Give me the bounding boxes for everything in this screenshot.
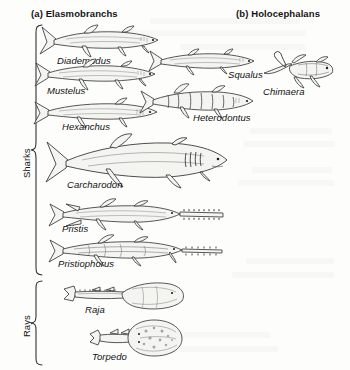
taxon-label-pristiophorus: Pristiophorus	[58, 258, 114, 269]
taxon-label-carcharodon: Carcharodon	[67, 179, 122, 190]
group-label-rays: Rays	[21, 315, 32, 337]
taxon-label-raja: Raja	[85, 304, 105, 315]
taxon-art-chimaera	[262, 52, 336, 90]
taxon-label-squalus: Squalus	[228, 69, 263, 80]
group-label-sharks: Sharks	[21, 148, 32, 178]
taxonomy-figure: (a) Elasmobranchs (b) Holocephalans Shar…	[0, 0, 350, 370]
paper-bleed	[243, 141, 335, 147]
bracket-rays	[30, 280, 44, 366]
paper-bleed	[252, 167, 332, 173]
paper-bleed	[232, 272, 334, 278]
column-header-holocephalans: (b) Holocephalans	[236, 8, 320, 19]
taxon-label-torpedo: Torpedo	[92, 351, 127, 362]
taxon-label-hexanchus: Hexanchus	[62, 121, 110, 132]
paper-bleed	[238, 180, 334, 186]
taxon-label-chimaera: Chimaera	[263, 86, 305, 97]
taxon-label-heterodontus: Heterodontus	[193, 112, 251, 123]
paper-bleed	[246, 258, 334, 264]
taxon-art-raja	[62, 281, 186, 313]
taxon-label-mustelus: Mustelus	[47, 85, 85, 96]
column-header-elasmobranchs: (a) Elasmobranchs	[31, 8, 118, 19]
paper-bleed	[250, 128, 332, 134]
